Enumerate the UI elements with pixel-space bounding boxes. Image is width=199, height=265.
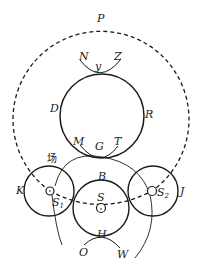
- label-d: D: [49, 102, 59, 115]
- label-s: S: [97, 191, 105, 204]
- s1-dot: [49, 190, 51, 192]
- label-h: H: [96, 228, 107, 241]
- label-b: B: [97, 170, 106, 183]
- label-p: P: [96, 12, 105, 25]
- dashed-orbit: [13, 31, 189, 191]
- label-m: M: [72, 135, 85, 148]
- s-core: [97, 204, 106, 213]
- label-chang: 场: [47, 152, 57, 164]
- label-r: R: [144, 108, 153, 121]
- label-z: Z: [113, 50, 122, 63]
- label-n: N: [78, 50, 89, 63]
- label-j: J: [178, 185, 185, 198]
- label-g: G: [95, 140, 104, 153]
- label-s2: S2: [157, 186, 170, 200]
- diagram-canvas: P N y Z D R M G T 场 B K S1 S S2 J H O W: [0, 0, 199, 265]
- label-s1: S1: [52, 196, 64, 210]
- label-t: T: [114, 135, 123, 148]
- label-k: K: [15, 184, 25, 197]
- label-w: W: [117, 248, 130, 261]
- s-dot: [100, 208, 102, 210]
- label-o: O: [79, 246, 88, 259]
- label-y: y: [94, 60, 102, 73]
- s2-core: [148, 187, 157, 196]
